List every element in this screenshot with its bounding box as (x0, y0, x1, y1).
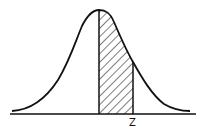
normal-curve-diagram: Z (0, 0, 208, 132)
shaded-area (99, 0, 133, 114)
z-label: Z (129, 117, 136, 128)
